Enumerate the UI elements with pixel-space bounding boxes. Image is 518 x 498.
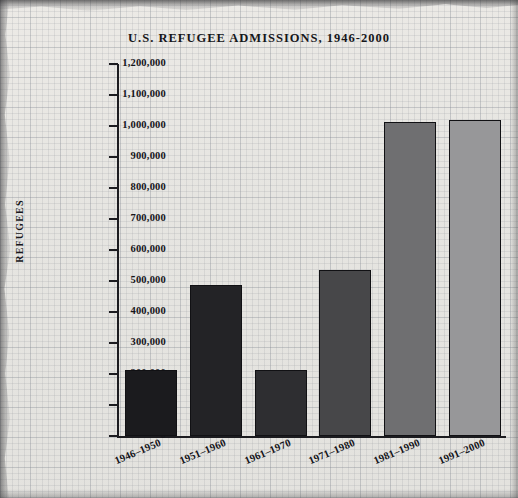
chart-title: U.S. REFUGEE ADMISSIONS, 1946-2000 (0, 31, 518, 46)
x-axis-tick-label: 1991–2000 (437, 437, 486, 466)
x-axis-tick-label: 1961–1970 (243, 437, 292, 466)
x-axis-tick-label: 1981–1990 (372, 437, 421, 466)
y-axis-label: REFUGEES (14, 166, 25, 296)
y-axis-tick-label: 300,000 (130, 336, 166, 347)
paper-bottom-edge (0, 489, 518, 498)
x-axis-tick-label: 1951–1960 (178, 437, 227, 466)
chart-page: U.S. REFUGEE ADMISSIONS, 1946-2000 REFUG… (0, 0, 518, 498)
y-axis-tick-label: 600,000 (130, 243, 166, 254)
bar (384, 122, 436, 436)
y-axis-tick-label: 500,000 (130, 274, 166, 285)
y-axis-tick-label: 900,000 (130, 150, 166, 161)
y-axis-tick-label: 1,100,000 (122, 88, 166, 99)
y-axis-tick-label: 800,000 (130, 181, 166, 192)
y-axis-tick-label: 700,000 (130, 212, 166, 223)
x-axis-line (117, 436, 506, 438)
x-axis-tick-label: 1946–1950 (113, 437, 162, 466)
bar (125, 370, 177, 436)
y-axis-tick-label: 1,200,000 (122, 57, 166, 68)
bar (319, 270, 371, 436)
y-axis-tick-label: 400,000 (130, 305, 166, 316)
y-axis-tick-label: 1,000,000 (122, 119, 166, 130)
torn-paper-top-edge (0, 0, 518, 14)
bar (255, 370, 307, 436)
bar (449, 120, 501, 437)
paper-right-edge (510, 0, 518, 498)
plot-area: 0100,000200,000300,000400,000500,000600,… (118, 64, 506, 436)
bar (190, 285, 242, 436)
x-axis-tick-label: 1971–1980 (307, 437, 356, 466)
